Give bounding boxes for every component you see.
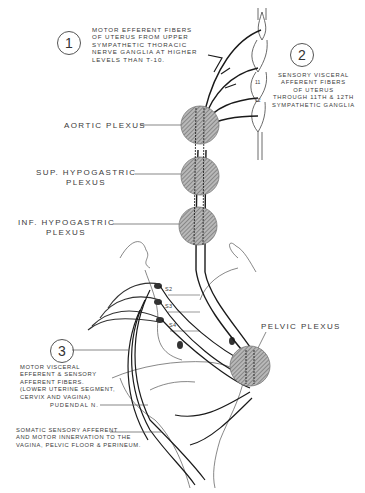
somatic-innervation-label: SOMATIC SENSORY AFFERENT AND MOTOR INNER…: [16, 427, 141, 449]
callout-text-3: MOTOR VISCERAL EFFERENT & SENSORY AFFERE…: [20, 364, 115, 401]
callout-text-1: MOTOR EFFERENT FIBERS OF UTERUS FROM UPP…: [92, 26, 197, 63]
arrow-icon: [208, 55, 236, 88]
vertebra-label-12: 12: [255, 97, 261, 104]
sacral-label-s4: S4: [169, 322, 176, 329]
pelvic-plexus-label: PELVIC PLEXUS: [261, 322, 341, 332]
inf-hypogastric-plexus-label: INF. HYPOGASTRIC PLEXUS: [18, 218, 114, 237]
callout-number-1: 1: [57, 31, 81, 55]
aortic-plexus-label: AORTIC PLEXUS: [64, 121, 146, 131]
callout-number-2: 2: [290, 43, 314, 67]
sacral-label-s2: S2: [165, 286, 172, 293]
pudendal-nerve-label: PUDENDAL N.: [50, 402, 99, 409]
callout-number-3: 3: [50, 339, 74, 363]
sacral-roots: [88, 283, 160, 330]
sacral-label-s3: S3: [165, 303, 172, 310]
aortic-plexus: [181, 106, 219, 144]
inf-hypogastric-plexus: [179, 207, 217, 245]
sup-hypogastric-plexus-label: SUP. HYPOGASTRIC PLEXUS: [36, 168, 136, 187]
callout-text-2: SENSORY VISCERAL AFFERENT FIBERS OF UTER…: [266, 72, 361, 109]
pelvic-splanchnic-nerves: [128, 286, 252, 485]
sup-hypogastric-plexus: [181, 157, 219, 195]
pelvic-plexus: [230, 346, 270, 386]
vertebra-label-11: 11: [255, 79, 260, 86]
